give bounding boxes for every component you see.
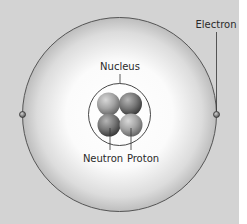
- nucleus-label: Nucleus: [100, 61, 140, 72]
- atom-svg: Electron Nucleus Neutron Proton: [0, 0, 247, 224]
- atom-diagram: Electron Nucleus Neutron Proton: [0, 0, 247, 224]
- electron-label: Electron: [195, 19, 236, 30]
- proton-label: Proton: [127, 153, 159, 164]
- proton-top-left: [97, 93, 120, 116]
- neutron-label: Neutron: [83, 153, 123, 164]
- electron-right: [214, 112, 220, 118]
- electron-left: [20, 112, 26, 118]
- neutron-bottom-left: [98, 114, 121, 137]
- neutron-top-right: [119, 93, 142, 116]
- electron-shell: [23, 18, 217, 212]
